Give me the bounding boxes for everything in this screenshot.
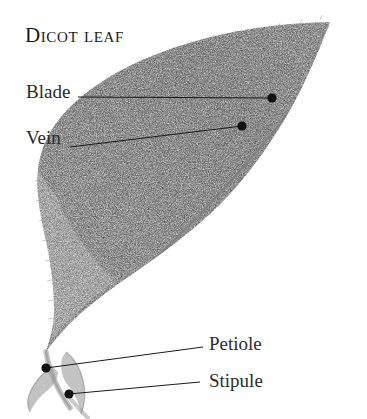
leader-line-stipule [64,382,200,399]
callout-dot-vein[interactable] [237,121,246,130]
leader-line-petiole [41,347,203,373]
callout-dot-stipule[interactable] [64,389,73,398]
callout-dot-petiole[interactable] [41,363,50,372]
label-blade: Blade [26,82,70,101]
label-petiole: Petiole [209,334,262,353]
label-vein: Vein [26,128,61,147]
leader-line-blade [78,93,277,102]
figure-canvas: Dicot leaf Blade Vein Petiole Stipule [0,0,367,419]
label-stipule: Stipule [209,371,263,390]
callout-layer [0,0,367,419]
leader-line-vein [70,121,247,147]
callout-dot-blade[interactable] [267,93,276,102]
